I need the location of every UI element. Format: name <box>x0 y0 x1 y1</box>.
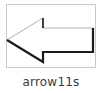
shape-caption: arrow11s <box>0 75 102 89</box>
